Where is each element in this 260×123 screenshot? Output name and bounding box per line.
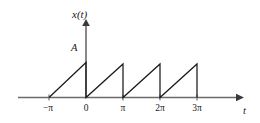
amplitude-label: A	[71, 43, 77, 54]
y-axis-label: x(t)	[72, 9, 87, 20]
x-axis-arrowhead	[236, 94, 244, 102]
tick-label-2pi: 2π	[155, 104, 165, 114]
y-axis-arrowhead	[82, 19, 90, 26]
tick-label-minus-pi: −π	[43, 104, 53, 114]
tick-label-3pi: 3π	[192, 104, 202, 114]
sawtooth-signal-trace	[49, 63, 197, 98]
x-axis-label: t	[243, 106, 246, 117]
sawtooth-waveform-figure: x(t) t A −π 0 π 2π 3π	[0, 0, 260, 123]
tick-label-zero: 0	[84, 104, 89, 114]
plot-canvas	[0, 0, 260, 123]
tick-label-pi: π	[121, 104, 126, 114]
